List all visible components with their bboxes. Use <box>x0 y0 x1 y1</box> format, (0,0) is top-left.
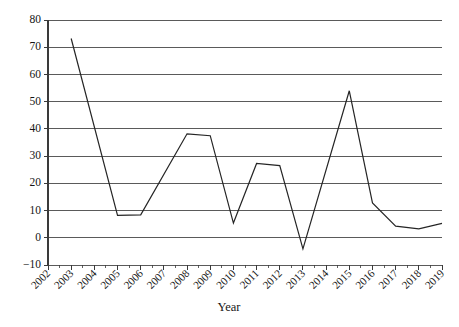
y-tick-label: 50 <box>30 95 42 107</box>
y-tick-label: 70 <box>30 40 42 52</box>
y-tick-label: 30 <box>30 149 42 161</box>
y-tick-label: 10 <box>30 204 42 216</box>
chart-canvas: 80706050403020100−10 2002200320042005200… <box>0 0 459 327</box>
y-tick-label: 80 <box>30 13 42 25</box>
y-tick-label: 20 <box>30 176 42 188</box>
y-tick-label: 60 <box>30 68 42 80</box>
y-tick-label: 0 <box>35 231 41 243</box>
y-tick-label: −10 <box>23 258 41 270</box>
line-chart: 80706050403020100−10 2002200320042005200… <box>0 0 459 327</box>
y-tick-label: 40 <box>30 122 42 134</box>
x-axis-title: Year <box>217 300 241 314</box>
